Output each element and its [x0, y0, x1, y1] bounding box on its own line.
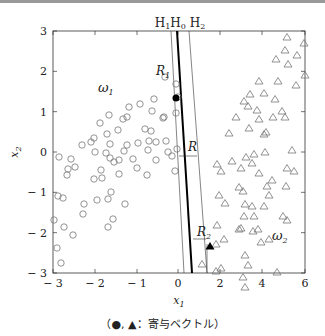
- omega1-point: [115, 127, 121, 133]
- omega2-point: [240, 98, 248, 105]
- omega1-point: [92, 149, 98, 155]
- line-labels: H1H0 H2: [155, 16, 206, 31]
- omega2-point: [292, 82, 300, 89]
- support-vector-circle: [173, 95, 180, 102]
- omega1-point: [72, 164, 78, 170]
- omega1-point: [126, 104, 132, 110]
- omega1-point: [163, 138, 169, 144]
- omega2-point: [220, 236, 228, 243]
- x-tick-label: − 2: [85, 277, 105, 290]
- omega2-point: [215, 192, 223, 199]
- omega1-point: [149, 108, 155, 114]
- omega2-point: [239, 274, 247, 281]
- omega1-point: [134, 165, 140, 171]
- chart-labels: H1H0 H2R1RR2ω1ω2: [98, 16, 288, 245]
- omega1-point: [145, 147, 151, 153]
- y-axis-label: x2: [8, 146, 23, 157]
- omega1-point: [106, 112, 112, 118]
- omega1-point: [146, 138, 152, 144]
- x-tick-label: 4: [259, 277, 266, 290]
- omega2-point: [241, 252, 249, 259]
- omega1-point: [153, 157, 159, 163]
- omega2-point: [250, 213, 258, 220]
- omega1-point: [148, 128, 154, 134]
- omega1-point: [54, 245, 60, 251]
- omega1-point: [153, 139, 159, 145]
- omega1-point: [51, 217, 57, 223]
- omega2-point: [281, 114, 289, 121]
- omega2-point: [278, 108, 286, 115]
- omega2-point: [268, 177, 276, 184]
- omega2-point: [217, 168, 225, 175]
- omega2-point: [253, 107, 261, 114]
- omega2-point: [239, 188, 247, 195]
- omega2-point: [263, 183, 271, 190]
- r1-label: R1: [155, 64, 170, 80]
- omega1-point: [165, 149, 171, 155]
- omega2-point: [284, 61, 292, 68]
- omega1-point: [121, 148, 127, 154]
- omega2-point: [282, 183, 290, 190]
- omega2-point: [240, 213, 248, 220]
- omega1-point: [94, 197, 100, 203]
- x-tick-label: − 1: [127, 277, 147, 290]
- omega2-point: [261, 149, 269, 156]
- omega1-point: [110, 216, 116, 222]
- omega1-point: [99, 175, 105, 181]
- x-tick-label: 2: [217, 277, 224, 290]
- omega2-point: [269, 114, 277, 121]
- omega1-point: [81, 201, 87, 207]
- omega2-point: [274, 78, 282, 85]
- y-tick-label: 0: [40, 146, 47, 159]
- omega2-point: [257, 239, 265, 246]
- omega1-point: [120, 116, 126, 122]
- omega2-point: [250, 151, 258, 158]
- omega2-point: [242, 154, 250, 161]
- omega2-point: [212, 241, 220, 248]
- omega1-point: [79, 142, 85, 148]
- omega1-point: [122, 201, 128, 207]
- omega2-point: [293, 52, 301, 59]
- omega1-point: [151, 96, 157, 102]
- omega2-point: [248, 203, 256, 210]
- omega2-point: [271, 96, 279, 103]
- omega2-point: [272, 56, 280, 63]
- omega1-point: [65, 166, 71, 172]
- omega1-label: ω1: [98, 80, 114, 97]
- omega1-point: [142, 126, 148, 132]
- figure-caption: （●, ▲：寄与ベクトル）: [0, 315, 325, 331]
- omega2-point: [228, 158, 236, 165]
- omega2-point: [246, 91, 254, 98]
- omega2-point: [288, 147, 296, 154]
- omega1-point: [70, 232, 76, 238]
- r2-label: R2: [196, 225, 211, 241]
- omega2-point: [217, 265, 225, 272]
- omega2-point: [241, 284, 249, 291]
- omega1-point: [107, 155, 113, 161]
- omega2-point: [237, 225, 245, 232]
- y-tick-label: 2: [40, 65, 47, 78]
- omega2-point: [213, 222, 221, 229]
- omega1-point: [58, 260, 64, 266]
- omega1-point: [137, 101, 143, 107]
- omega2-point: [225, 130, 233, 137]
- x-axis-label: x1: [173, 294, 184, 309]
- x-tick-label: 0: [175, 277, 182, 290]
- omega1-point: [169, 153, 175, 159]
- omega1-point: [91, 176, 97, 182]
- omega1-point: [80, 211, 86, 217]
- omega2-point: [300, 40, 308, 47]
- omega2-point: [283, 165, 291, 172]
- y-tick-label: − 3: [27, 267, 47, 280]
- omega2-point: [283, 34, 291, 41]
- omega2-point: [244, 262, 252, 269]
- omega2-point: [255, 170, 263, 177]
- omega2-point: [213, 161, 221, 168]
- omega2-point: [245, 125, 253, 132]
- omega1-point: [130, 156, 136, 162]
- omega2-label: ω2: [272, 228, 288, 245]
- omega1-point: [104, 131, 110, 137]
- omega2-point: [221, 200, 229, 207]
- omega1-point: [105, 224, 111, 230]
- y-tick-label: − 2: [27, 227, 47, 240]
